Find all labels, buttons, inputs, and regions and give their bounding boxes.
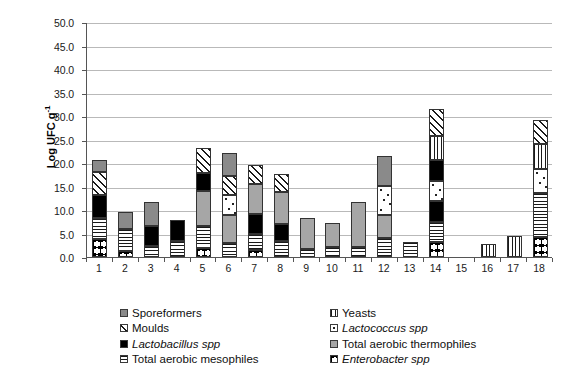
bar-segment-yeasts[interactable] bbox=[429, 136, 444, 160]
bar-stack-5[interactable] bbox=[196, 148, 211, 258]
bar-stack-14[interactable] bbox=[429, 109, 444, 257]
bar-segment-lactobacillus[interactable] bbox=[274, 224, 289, 241]
bar-stack-2[interactable] bbox=[118, 212, 133, 257]
bar-segment-mesophiles[interactable] bbox=[325, 247, 340, 257]
x-tick-mark bbox=[397, 258, 398, 262]
bar-segment-lactobacillus[interactable] bbox=[92, 195, 107, 218]
bar-segment-mesophiles[interactable] bbox=[377, 238, 392, 257]
bar-segment-enterobacter[interactable] bbox=[196, 248, 211, 257]
x-tick-mark bbox=[319, 258, 320, 262]
x-tick-mark bbox=[526, 258, 527, 262]
bar-stack-12[interactable] bbox=[377, 156, 392, 257]
bar-segment-lactococcus[interactable] bbox=[429, 181, 444, 201]
bar-stack-10[interactable] bbox=[325, 223, 340, 257]
bar-segment-sporeformers[interactable] bbox=[222, 153, 237, 176]
bar-segment-sporeformers[interactable] bbox=[92, 160, 107, 172]
bar-stack-4[interactable] bbox=[170, 220, 185, 257]
bar-segment-mesophiles[interactable] bbox=[92, 218, 107, 239]
bar-segment-moulds[interactable] bbox=[196, 148, 211, 173]
bar-segment-lactobacillus[interactable] bbox=[170, 220, 185, 240]
bar-stack-13[interactable] bbox=[403, 242, 418, 258]
bar-segment-sporeformers[interactable] bbox=[144, 202, 159, 226]
bar-segment-mesophiles[interactable] bbox=[196, 226, 211, 247]
bar-segment-mesophiles[interactable] bbox=[351, 247, 366, 257]
bar-segment-thermophiles[interactable] bbox=[196, 191, 211, 227]
legend-label: Enterobacter spp bbox=[342, 353, 430, 365]
x-tick-mark bbox=[448, 258, 449, 262]
bar-segment-thermophiles[interactable] bbox=[351, 202, 366, 247]
bar-segment-moulds[interactable] bbox=[274, 174, 289, 191]
bar-segment-moulds[interactable] bbox=[248, 165, 263, 184]
bar-segment-lactobacillus[interactable] bbox=[429, 160, 444, 181]
x-tick-mark bbox=[86, 258, 87, 262]
bar-segment-mesophiles[interactable] bbox=[274, 241, 289, 257]
legend-item-yeasts[interactable]: Yeasts bbox=[330, 305, 476, 321]
bar-segment-moulds[interactable] bbox=[92, 172, 107, 195]
x-tick-label-6: 6 bbox=[215, 262, 241, 274]
bar-segment-mesophiles[interactable] bbox=[170, 241, 185, 257]
bar-segment-lactobacillus[interactable] bbox=[248, 214, 263, 234]
bar-stack-6[interactable] bbox=[222, 153, 237, 257]
legend-item-thermophiles[interactable]: Total aerobic thermophiles bbox=[330, 336, 476, 352]
bar-stack-17[interactable] bbox=[507, 236, 522, 257]
bar-stack-11[interactable] bbox=[351, 202, 366, 257]
legend-item-enterobacter[interactable]: Enterobacter spp bbox=[330, 352, 476, 368]
bar-segment-yeasts[interactable] bbox=[507, 236, 522, 257]
bar-segment-enterobacter[interactable] bbox=[92, 239, 107, 257]
bar-stack-3[interactable] bbox=[144, 202, 159, 257]
bar-segment-lactobacillus[interactable] bbox=[196, 173, 211, 191]
legend-item-sporeformers[interactable]: Sporeformers bbox=[120, 305, 259, 321]
legend-label: Yeasts bbox=[342, 307, 376, 319]
x-tick-mark bbox=[267, 258, 268, 262]
bar-segment-thermophiles[interactable] bbox=[222, 215, 237, 243]
bar-segment-lactococcus[interactable] bbox=[377, 186, 392, 215]
bar-segment-yeasts[interactable] bbox=[481, 244, 496, 257]
legend-swatch-yeasts-icon bbox=[330, 309, 338, 317]
legend-item-moulds[interactable]: Moulds bbox=[120, 321, 259, 337]
legend-label: Sporeformers bbox=[132, 307, 202, 319]
bar-stack-16[interactable] bbox=[481, 244, 496, 257]
bar-segment-sporeformers[interactable] bbox=[377, 156, 392, 186]
bar-segment-mesophiles[interactable] bbox=[248, 234, 263, 250]
bar-stack-8[interactable] bbox=[274, 174, 289, 257]
bar-segment-thermophiles[interactable] bbox=[377, 215, 392, 239]
y-tick-label-45.0: 45.0 bbox=[0, 41, 74, 53]
bar-segment-lactococcus[interactable] bbox=[222, 195, 237, 215]
gridline bbox=[87, 141, 552, 142]
bar-segment-mesophiles[interactable] bbox=[118, 229, 133, 252]
legend-swatch-moulds-icon bbox=[120, 324, 128, 332]
y-tick-label-35.0: 35.0 bbox=[0, 88, 74, 100]
bar-segment-thermophiles[interactable] bbox=[325, 223, 340, 247]
bar-segment-yeasts[interactable] bbox=[533, 144, 548, 168]
bar-segment-thermophiles[interactable] bbox=[274, 192, 289, 224]
bar-segment-mesophiles[interactable] bbox=[300, 249, 315, 257]
bar-segment-moulds[interactable] bbox=[222, 176, 237, 195]
bar-segment-sporeformers[interactable] bbox=[118, 212, 133, 228]
bar-segment-thermophiles[interactable] bbox=[248, 184, 263, 214]
legend-item-mesophiles[interactable]: Total aerobic mesophiles bbox=[120, 352, 259, 368]
bar-segment-lactobacillus[interactable] bbox=[429, 201, 444, 222]
bar-segment-mesophiles[interactable] bbox=[403, 242, 418, 258]
bar-segment-enterobacter[interactable] bbox=[118, 251, 133, 257]
bar-stack-1[interactable] bbox=[92, 160, 107, 257]
legend-item-lactococcus[interactable]: Lactococcus spp bbox=[330, 321, 476, 337]
bar-stack-7[interactable] bbox=[248, 165, 263, 257]
legend-label: Lactobacillus spp bbox=[132, 338, 220, 350]
bar-stack-18[interactable] bbox=[533, 120, 548, 257]
gridline bbox=[87, 164, 552, 165]
bar-segment-mesophiles[interactable] bbox=[222, 243, 237, 257]
bar-segment-thermophiles[interactable] bbox=[300, 218, 315, 250]
bar-segment-enterobacter[interactable] bbox=[248, 250, 263, 257]
bar-segment-lactococcus[interactable] bbox=[533, 169, 548, 193]
bar-segment-lactobacillus[interactable] bbox=[144, 226, 159, 246]
bar-segment-mesophiles[interactable] bbox=[429, 222, 444, 242]
bar-segment-mesophiles[interactable] bbox=[533, 193, 548, 237]
legend-item-lactobacillus[interactable]: Lactobacillus spp bbox=[120, 336, 259, 352]
bar-stack-9[interactable] bbox=[300, 218, 315, 257]
bar-segment-mesophiles[interactable] bbox=[144, 246, 159, 257]
bar-segment-moulds[interactable] bbox=[533, 120, 548, 144]
bar-segment-moulds[interactable] bbox=[429, 109, 444, 136]
y-tick-label-40.0: 40.0 bbox=[0, 64, 74, 76]
bar-segment-enterobacter[interactable] bbox=[533, 237, 548, 257]
bar-segment-enterobacter[interactable] bbox=[429, 242, 444, 258]
